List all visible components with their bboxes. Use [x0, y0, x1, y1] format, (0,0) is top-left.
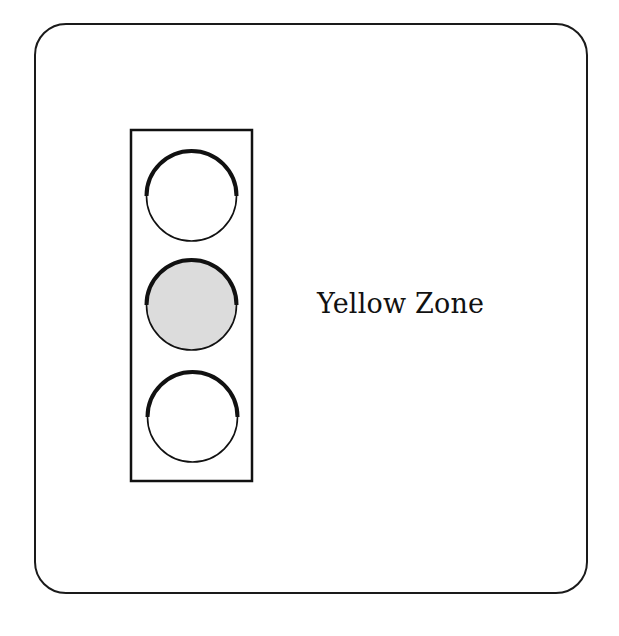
light-bottom	[148, 372, 238, 462]
light-middle	[147, 260, 237, 350]
traffic-light-diagram	[0, 0, 619, 636]
light-top	[147, 151, 237, 241]
zone-label: Yellow Zone	[317, 288, 484, 319]
